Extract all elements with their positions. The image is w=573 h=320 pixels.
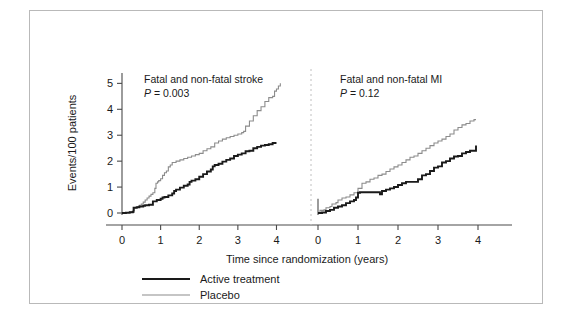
x-tick-label: 2 — [395, 234, 401, 246]
y-tick-label: 2 — [107, 155, 113, 167]
figure-root: 012345Events/100 patients01234Fatal and … — [0, 0, 573, 320]
x-tick-label: 4 — [273, 234, 279, 246]
x-tick-label: 4 — [475, 234, 481, 246]
panel-title: Fatal and non-fatal MI — [340, 73, 442, 85]
y-tick-label: 0 — [107, 207, 113, 219]
y-tick-label: 1 — [107, 181, 113, 193]
panel-title: Fatal and non-fatal stroke — [144, 73, 263, 85]
pvalue-symbol: P — [144, 87, 151, 99]
pvalue-text: = 0.003 — [151, 87, 189, 99]
y-axis: 012345 — [107, 73, 122, 219]
x-tick-label: 2 — [196, 234, 202, 246]
panel-pvalue: P = 0.12 — [340, 87, 380, 99]
x-tick-label: 1 — [158, 234, 164, 246]
legend: Active treatmentPlacebo — [142, 273, 279, 301]
figure-frame: 012345Events/100 patients01234Fatal and … — [29, 10, 543, 304]
curve-placebo — [318, 120, 476, 213]
panel-pvalue: P = 0.003 — [144, 87, 189, 99]
pvalue-text: = 0.12 — [347, 87, 380, 99]
pvalue-symbol: P — [340, 87, 347, 99]
x-tick-label: 0 — [315, 234, 321, 246]
x-tick-label: 1 — [355, 234, 361, 246]
x-tick-label: 3 — [235, 234, 241, 246]
x-axis-title: Time since randomization (years) — [226, 253, 388, 265]
curve-active-treatment — [318, 146, 476, 213]
stroke-panel: 01234Fatal and non-fatal strokeP = 0.003 — [119, 73, 280, 246]
x-tick-label: 3 — [435, 234, 441, 246]
y-tick-label: 4 — [107, 103, 113, 115]
legend-label-placebo: Placebo — [200, 289, 240, 301]
legend-label-active-treatment: Active treatment — [200, 273, 279, 285]
y-tick-label: 3 — [107, 129, 113, 141]
mi-panel: 01234Fatal and non-fatal MIP = 0.12 — [315, 73, 481, 246]
x-tick-label: 0 — [119, 234, 125, 246]
y-tick-label: 5 — [107, 77, 113, 89]
y-axis-title: Events/100 patients — [66, 94, 78, 191]
kaplan-meier-plot: 012345Events/100 patients01234Fatal and … — [30, 11, 542, 303]
